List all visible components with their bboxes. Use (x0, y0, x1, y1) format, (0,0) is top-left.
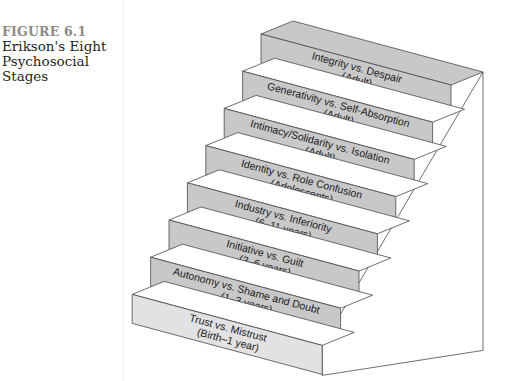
staircase-diagram: Integrity vs. Despair(Adult)Generativity… (0, 0, 523, 381)
